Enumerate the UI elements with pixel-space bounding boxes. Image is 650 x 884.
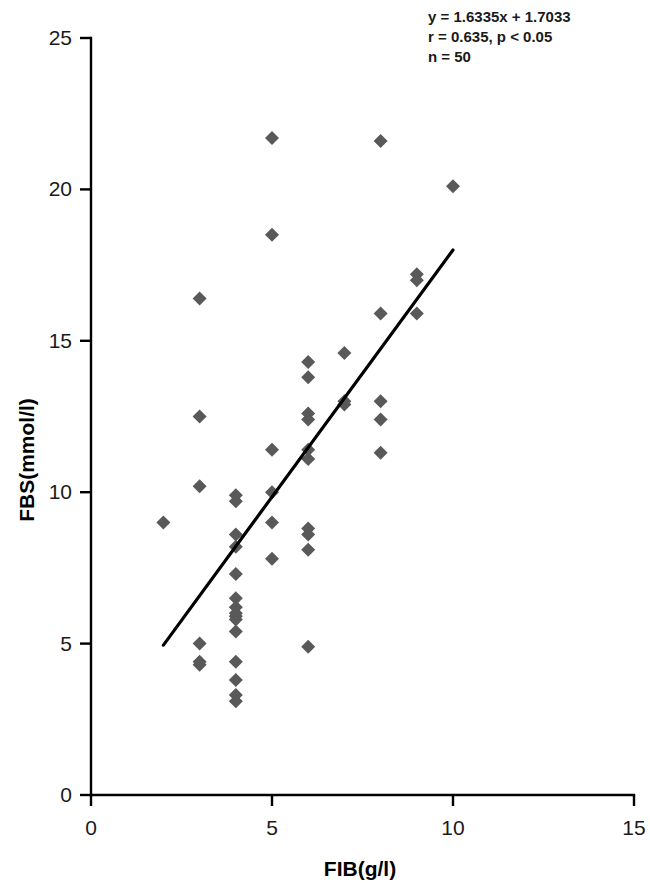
data-point-marker bbox=[265, 515, 279, 529]
y-tick-label: 15 bbox=[49, 329, 72, 352]
data-point-marker bbox=[265, 552, 279, 566]
data-point-marker bbox=[229, 673, 243, 687]
data-point-marker bbox=[265, 443, 279, 457]
scatter-plot-figure: 0510152025 051015 FBS(mmol/l) FIB(g/l) y… bbox=[0, 0, 650, 884]
x-axis-title: FIB(g/l) bbox=[324, 857, 396, 880]
data-point-marker bbox=[193, 479, 207, 493]
data-point-marker bbox=[374, 394, 388, 408]
data-point-marker bbox=[374, 413, 388, 427]
statistics-annotation: y = 1.6335x + 1.7033 r = 0.635, p < 0.05… bbox=[428, 8, 571, 65]
data-point-series bbox=[156, 131, 460, 708]
data-point-marker bbox=[301, 370, 315, 384]
data-point-marker bbox=[301, 640, 315, 654]
data-point-marker bbox=[193, 410, 207, 424]
y-axis-title: FBS(mmol/l) bbox=[15, 398, 38, 522]
y-tick-label: 5 bbox=[60, 632, 72, 655]
x-axis-ticks: 051015 bbox=[85, 795, 646, 839]
y-axis-ticks: 0510152025 bbox=[49, 26, 91, 806]
data-point-marker bbox=[301, 355, 315, 369]
data-point-marker bbox=[156, 515, 170, 529]
data-point-marker bbox=[229, 567, 243, 581]
y-tick-label: 10 bbox=[49, 480, 72, 503]
data-point-marker bbox=[374, 134, 388, 148]
data-point-marker bbox=[301, 543, 315, 557]
annotation-equation: y = 1.6335x + 1.7033 bbox=[428, 8, 571, 25]
annotation-correlation: r = 0.635, p < 0.05 bbox=[428, 28, 552, 45]
data-point-marker bbox=[337, 346, 351, 360]
data-point-marker bbox=[229, 655, 243, 669]
x-tick-label: 15 bbox=[622, 816, 645, 839]
data-point-marker bbox=[193, 291, 207, 305]
x-tick-label: 0 bbox=[85, 816, 97, 839]
y-tick-label: 20 bbox=[49, 177, 72, 200]
chart-canvas: 0510152025 051015 FBS(mmol/l) FIB(g/l) y… bbox=[0, 0, 650, 884]
y-tick-label: 0 bbox=[60, 783, 72, 806]
annotation-sample-size: n = 50 bbox=[428, 48, 471, 65]
data-point-marker bbox=[265, 131, 279, 145]
data-point-marker bbox=[374, 307, 388, 321]
x-tick-label: 5 bbox=[266, 816, 278, 839]
data-point-marker bbox=[229, 624, 243, 638]
y-tick-label: 25 bbox=[49, 26, 72, 49]
regression-line bbox=[163, 250, 453, 645]
data-point-marker bbox=[374, 446, 388, 460]
data-point-marker bbox=[193, 637, 207, 651]
data-point-marker bbox=[265, 228, 279, 242]
x-tick-label: 10 bbox=[441, 816, 464, 839]
data-point-marker bbox=[446, 179, 460, 193]
axes-group bbox=[91, 38, 634, 795]
